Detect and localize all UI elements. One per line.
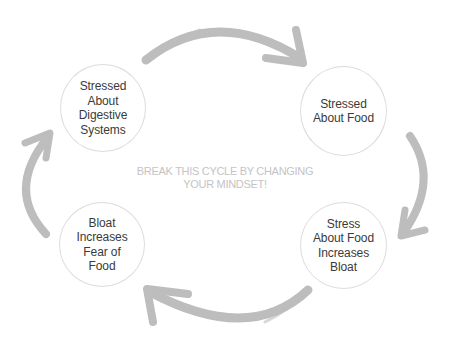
curved-arrow-right-icon bbox=[146, 30, 303, 63]
node-label: Stressed About Food bbox=[313, 97, 374, 126]
node-stressed-about-food: Stressed About Food bbox=[300, 66, 387, 156]
node-label: Stressed About Digestive Systems bbox=[79, 79, 127, 137]
node-label: Stress About Food Increases Bloat bbox=[313, 217, 374, 275]
node-stress-increases-bloat: Stress About Food Increases Bloat bbox=[300, 202, 387, 289]
node-bloat-increases-fear: Bloat Increases Fear of Food bbox=[59, 202, 145, 287]
center-message: BREAK THIS CYCLE BY CHANGING YOUR MINDSE… bbox=[120, 165, 330, 191]
curved-arrow-left-icon bbox=[147, 289, 308, 322]
curved-arrow-up-icon bbox=[25, 133, 50, 234]
node-stressed-about-digestive-systems: Stressed About Digestive Systems bbox=[60, 64, 146, 152]
node-label: Bloat Increases Fear of Food bbox=[76, 216, 127, 274]
curved-arrow-down-icon bbox=[401, 136, 425, 236]
